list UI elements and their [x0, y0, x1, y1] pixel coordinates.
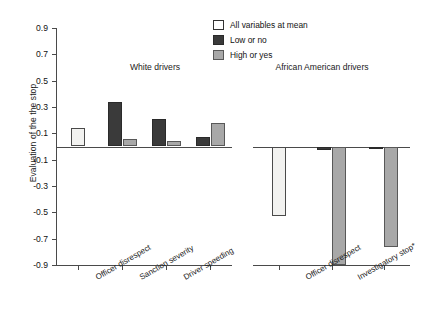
y-tick-label: 0.9 — [22, 23, 48, 33]
y-tick-label: 0.1 — [22, 128, 48, 138]
bar-african-american-drivers-0-mean — [272, 147, 286, 217]
y-tick-label: 0.3 — [22, 102, 48, 112]
y-tick-label: -0.5 — [22, 207, 48, 217]
legend-swatch-high-icon — [213, 50, 224, 60]
y-tick-mark — [52, 28, 57, 29]
chart-figure: Evaluation of the the stop0.90.70.50.30.… — [0, 0, 422, 314]
panel-title-white-drivers: White drivers — [95, 62, 215, 72]
y-tick-label: 0.7 — [22, 49, 48, 59]
panel-title-african-american-drivers: African American drivers — [262, 62, 382, 72]
x-tick-mark-white-drivers-0 — [78, 265, 79, 270]
bar-white-drivers-3-low — [196, 137, 210, 146]
legend-item-low[interactable]: Low or no — [213, 35, 363, 46]
zero-line-panel-white-drivers — [56, 147, 232, 148]
y-tick-mark — [52, 107, 57, 108]
y-tick-label: -0.9 — [22, 260, 48, 270]
y-tick-label: -0.1 — [22, 155, 48, 165]
y-tick-mark — [52, 186, 57, 187]
y-tick-label: -0.3 — [22, 181, 48, 191]
y-tick-mark — [52, 133, 57, 134]
y-tick-mark — [52, 81, 57, 82]
y-tick-mark — [52, 160, 57, 161]
y-tick-mark — [52, 239, 57, 240]
y-tick-label: 0.5 — [22, 76, 48, 86]
bar-african-american-drivers-1-low — [317, 147, 331, 151]
legend-label: All variables at mean — [230, 20, 308, 30]
legend-swatch-low-icon — [213, 35, 224, 45]
legend-item-mean[interactable]: All variables at mean — [213, 20, 363, 31]
x-tick-mark-african-american-drivers-0 — [279, 265, 280, 270]
x-tick-label-african-american-drivers-2: Investigatory stop* — [356, 241, 417, 282]
bar-white-drivers-3-high — [211, 123, 225, 147]
bar-african-american-drivers-1-high — [332, 147, 346, 266]
bar-white-drivers-0-mean — [71, 128, 85, 146]
y-tick-mark — [52, 54, 57, 55]
legend-swatch-mean-icon — [213, 20, 224, 30]
bar-white-drivers-2-high — [167, 141, 181, 146]
bar-african-american-drivers-2-low — [369, 147, 383, 150]
bar-white-drivers-1-low — [108, 102, 122, 147]
bar-white-drivers-1-high — [123, 139, 137, 147]
y-tick-mark — [52, 212, 57, 213]
legend-item-high[interactable]: High or yes — [213, 50, 363, 61]
legend-label: Low or no — [230, 35, 267, 45]
legend-label: High or yes — [230, 50, 272, 60]
bar-african-american-drivers-2-high — [384, 147, 398, 247]
y-tick-label: -0.7 — [22, 234, 48, 244]
bar-white-drivers-2-low — [152, 119, 166, 147]
chart-legend: All variables at meanLow or noHigh or ye… — [213, 20, 363, 66]
